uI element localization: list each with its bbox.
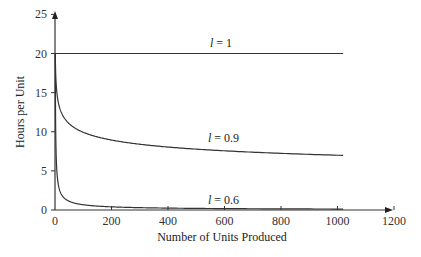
x-tick-label: 200 — [103, 214, 121, 228]
x-tick-label: 1000 — [326, 214, 350, 228]
curve-label-value: = 0.6 — [211, 193, 239, 207]
y-tick-label: 0 — [41, 203, 47, 217]
x-ticks: 020040060080010001200 — [52, 206, 406, 228]
y-tick-label: 25 — [35, 7, 47, 21]
x-tick-label: 1200 — [382, 214, 406, 228]
x-axis-title: Number of Units Produced — [157, 230, 287, 244]
plot-lines — [55, 54, 343, 210]
curve-label-l-1: l = 1 — [210, 36, 232, 50]
learning-curve-chart: 020040060080010001200 0510152025 Number … — [0, 0, 421, 257]
y-tick-label: 5 — [41, 164, 47, 178]
x-tick-label: 400 — [159, 214, 177, 228]
curve-l-0-9 — [55, 54, 343, 156]
y-tick-label: 20 — [35, 47, 47, 61]
x-tick-label: 600 — [216, 214, 234, 228]
y-axis-title: Hours per Unit — [13, 75, 27, 148]
x-axis-arrow-icon — [385, 207, 393, 213]
x-tick-label: 0 — [52, 214, 58, 228]
curve-label-l-0-6: l = 0.6 — [208, 193, 239, 207]
curve-label-l-0-9: l = 0.9 — [208, 131, 239, 145]
x-tick-label: 800 — [272, 214, 290, 228]
curve-label-value: = 1 — [213, 36, 232, 50]
y-ticks: 0510152025 — [35, 7, 55, 217]
curve-label-value: = 0.9 — [211, 131, 239, 145]
y-tick-label: 15 — [35, 86, 47, 100]
curve-l-0-6 — [55, 54, 343, 210]
y-tick-label: 10 — [35, 125, 47, 139]
y-axis-arrow-icon — [52, 11, 58, 19]
